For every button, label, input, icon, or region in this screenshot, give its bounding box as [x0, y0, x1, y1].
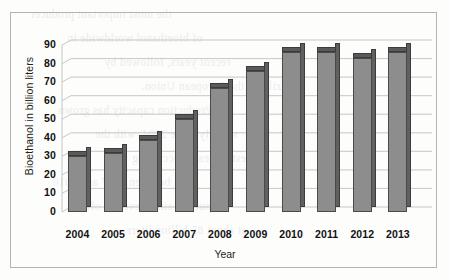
bar: [282, 47, 301, 212]
bar: [175, 114, 194, 212]
bar: [68, 151, 87, 212]
bar: [139, 135, 158, 212]
bar-front-face: [104, 153, 123, 212]
bar-front-face: [175, 119, 194, 212]
bar-chart: Bioethanol in billion liters 01020304050…: [0, 0, 450, 280]
bar: [317, 47, 336, 212]
bar-series: [0, 0, 450, 280]
bar: [353, 53, 372, 212]
bar-front-face: [353, 58, 372, 212]
bar-front-face: [282, 52, 301, 212]
bar-front-face: [246, 71, 265, 212]
bar-front-face: [68, 156, 87, 212]
bar: [104, 148, 123, 212]
bar: [210, 83, 229, 212]
bar-front-face: [388, 52, 407, 212]
bar-front-face: [317, 52, 336, 212]
bar: [246, 66, 265, 212]
bar-front-face: [210, 88, 229, 212]
bar: [388, 47, 407, 212]
bar-front-face: [139, 140, 158, 212]
